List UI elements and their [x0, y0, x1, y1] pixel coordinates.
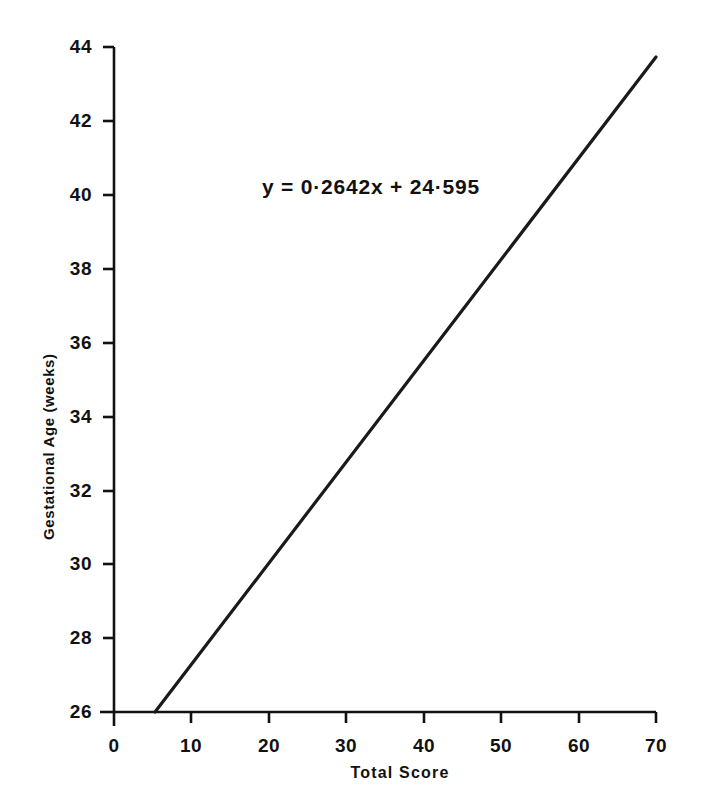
y-tick-label: 44: [50, 36, 92, 58]
y-tick-label: 28: [50, 627, 92, 649]
x-tick-label: 60: [568, 735, 590, 757]
x-tick-label: 20: [258, 735, 280, 757]
x-tick-label: 40: [413, 735, 435, 757]
y-axis-title: Gestational Age (weeks): [40, 353, 57, 540]
y-tick-label: 40: [50, 184, 92, 206]
y-tick-label: 30: [50, 553, 92, 575]
x-axis-title: Total Score: [350, 764, 449, 782]
x-tick-label: 10: [180, 735, 202, 757]
y-tick-label: 38: [50, 258, 92, 280]
regression-line: [155, 57, 656, 712]
plot-area: [0, 0, 709, 799]
y-tick-label: 42: [50, 110, 92, 132]
x-tick-marks: [114, 712, 656, 726]
y-tick-label: 36: [50, 332, 92, 354]
equation-annotation: y = 0·2642x + 24·595: [262, 175, 480, 199]
x-tick-label: 70: [645, 735, 667, 757]
y-tick-label: 26: [50, 701, 92, 723]
x-tick-label: 50: [490, 735, 512, 757]
y-tick-marks: [100, 47, 114, 712]
x-tick-label: 30: [335, 735, 357, 757]
chart-figure: 26 28 30 32 34 36 38 40 42 44 0 10 20 30…: [0, 0, 709, 799]
x-tick-label: 0: [108, 735, 119, 757]
